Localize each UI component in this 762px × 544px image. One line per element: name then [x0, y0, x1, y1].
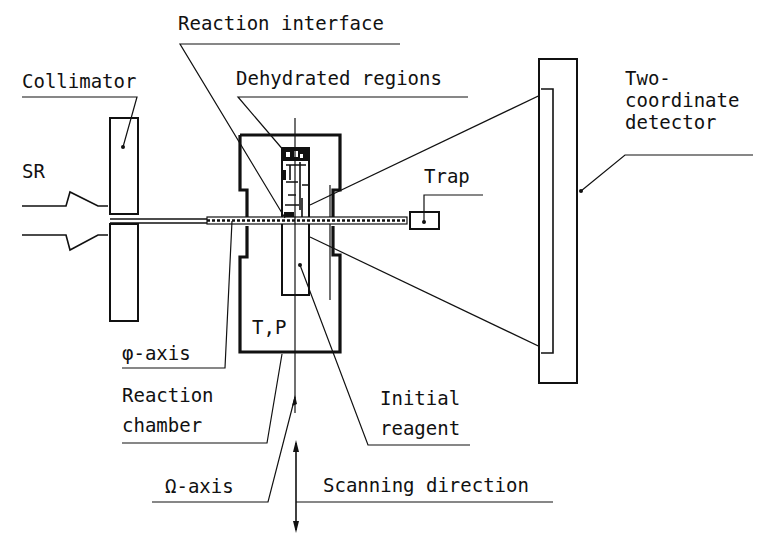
two-coordinate-detector: [539, 59, 577, 383]
scanning-direction-label: Scanning direction: [323, 474, 529, 496]
phi-axis-label: φ-axis: [122, 342, 191, 364]
detector-label-1: Two-: [625, 67, 671, 89]
reaction-interface-label: Reaction interface: [178, 12, 384, 34]
omega-axis-label: Ω-axis: [165, 475, 234, 497]
dehydrated-regions-label: Dehydrated regions: [236, 67, 442, 89]
detector-label-3: detector: [625, 111, 717, 133]
sr-label: SR: [22, 160, 45, 182]
initial-reagent-label-1: Initial: [380, 387, 460, 409]
detector-label-2: coordinate: [625, 89, 739, 111]
sr-beam-arrow: [22, 192, 108, 250]
reaction-chamber-label-2: chamber: [122, 414, 202, 436]
scanning-direction-arrow: [293, 440, 299, 533]
reaction-chamber-label-1: Reaction: [122, 384, 214, 406]
trap-label: Trap: [424, 165, 470, 187]
experimental-setup-diagram: SR Collimator T,P Trap: [0, 0, 762, 544]
tp-label: T,P: [252, 316, 286, 338]
beam-path: [207, 217, 407, 224]
initial-reagent-label-2: reagent: [380, 417, 460, 439]
collimator-label: Collimator: [22, 70, 136, 92]
